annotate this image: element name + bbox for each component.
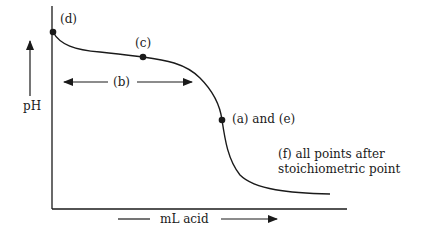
point-d-marker: [50, 29, 57, 36]
region-b-label: (b): [113, 76, 130, 88]
point-c-label: (c): [135, 37, 151, 49]
point-ae-marker: [219, 117, 226, 124]
point-d-label: (d): [60, 13, 77, 25]
x-axis-label: mL acid: [160, 213, 209, 225]
point-ae-label: (a) and (e): [232, 113, 295, 125]
annotation-f-line2: stoichiometric point: [278, 162, 418, 177]
diagram-graphics: [0, 0, 421, 232]
titration-diagram: (d) (c) (a) and (e) (b) pH mL acid (f) a…: [0, 0, 421, 232]
y-axis-label: pH: [23, 100, 41, 112]
annotation-f-line1: (f) all points after: [278, 147, 418, 162]
annotation-f: (f) all points after stoichiometric poin…: [278, 147, 418, 177]
point-c-marker: [140, 54, 147, 61]
